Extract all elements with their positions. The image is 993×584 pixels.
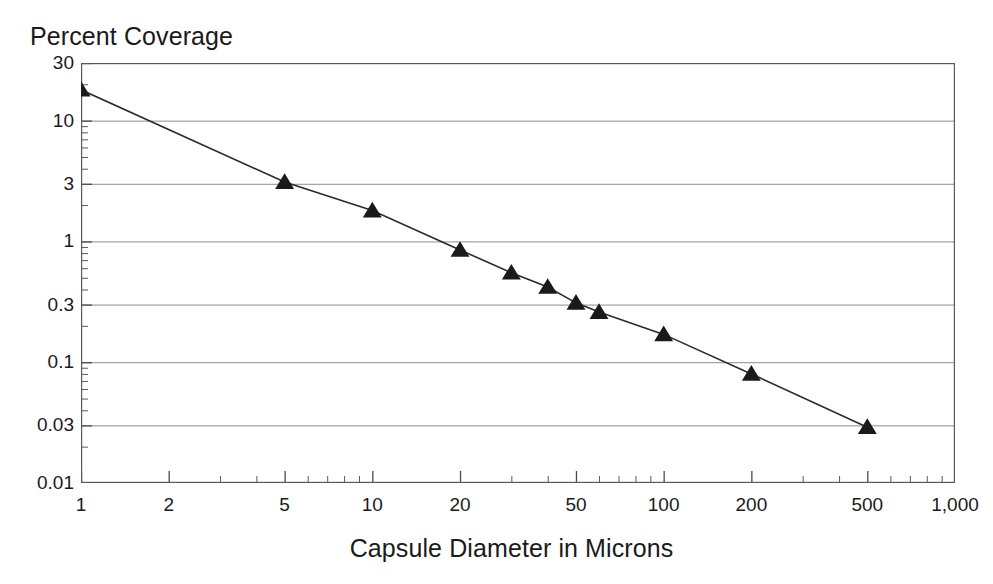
- x-tick-label: 200: [736, 494, 768, 516]
- x-axis-title-text: Capsule Diameter in Microns: [350, 534, 674, 563]
- x-tick-label: 10: [362, 494, 383, 516]
- x-tick-label: 5: [279, 494, 290, 516]
- x-tick-label: 20: [449, 494, 470, 516]
- x-tick-label: 1: [76, 494, 87, 516]
- x-tick-label: 50: [565, 494, 586, 516]
- x-axis-tick-labels: 1251020501002005001,000: [0, 0, 993, 584]
- x-tick-label: 1,000: [931, 494, 979, 516]
- chart-page: Percent Coverage 3010310.30.10.030.01 12…: [0, 0, 993, 584]
- x-tick-label: 2: [163, 494, 174, 516]
- x-tick-label: 100: [648, 494, 680, 516]
- x-tick-label: 500: [851, 494, 883, 516]
- x-axis-title: Capsule Diameter in Microns: [0, 534, 993, 563]
